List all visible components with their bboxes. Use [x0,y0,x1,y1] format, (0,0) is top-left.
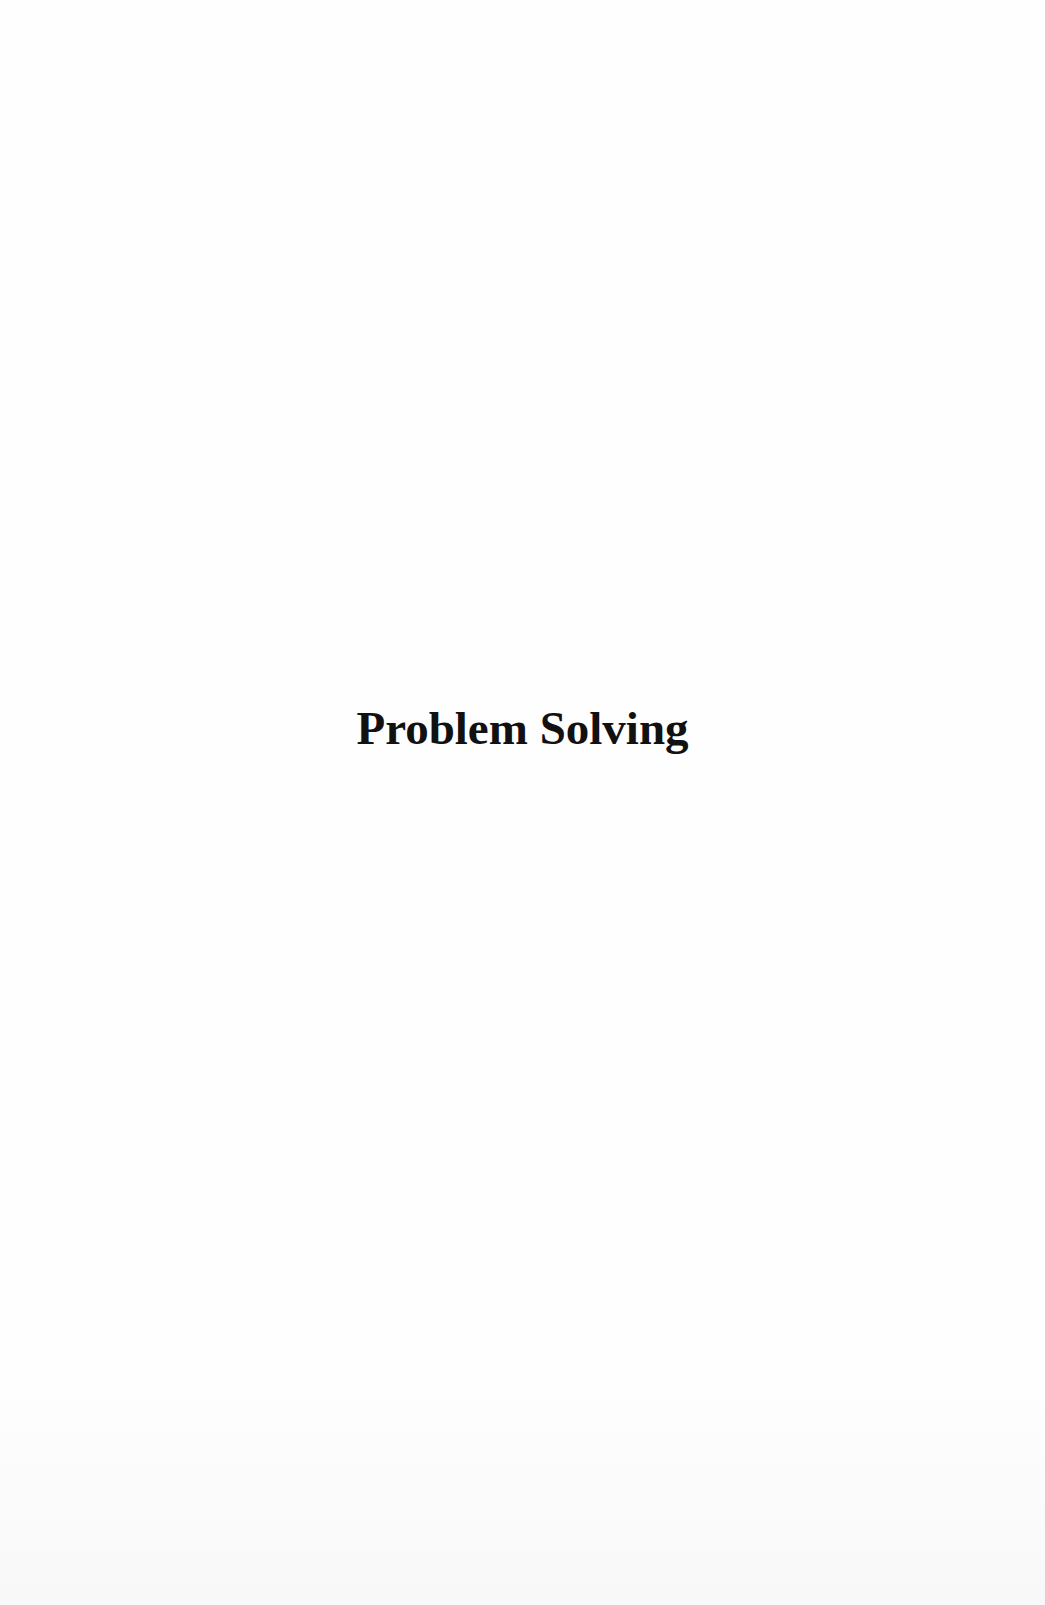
page-title: Problem Solving [0,700,1045,756]
document-page: Problem Solving [0,0,1045,1605]
paper-texture [0,1385,1045,1605]
